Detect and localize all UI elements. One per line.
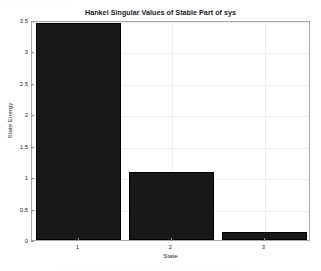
x-tick-label: 3 [262, 244, 265, 250]
x-tick-label: 1 [76, 244, 79, 250]
x-tick-label: 2 [169, 244, 172, 250]
chart-title: Hankel Singular Values of Stable Part of… [0, 8, 321, 17]
bar-2 [129, 172, 213, 240]
figure-canvas: ·· ··· ·· ···· · ·· ·· · Hankel Singular… [0, 0, 321, 271]
bars-layer [32, 22, 309, 240]
y-tick-mark [31, 21, 34, 22]
plot-area [31, 21, 310, 241]
x-tick-mark [78, 238, 79, 241]
y-tick-label: 3.5 [4, 18, 28, 24]
y-tick-label: 0 [4, 238, 28, 244]
y-tick-mark [31, 210, 34, 211]
y-tick-mark [31, 52, 34, 53]
y-tick-mark [31, 241, 34, 242]
y-tick-mark [31, 178, 34, 179]
x-tick-mark [264, 238, 265, 241]
y-tick-mark [31, 84, 34, 85]
bar-1 [36, 23, 120, 240]
x-tick-mark [171, 238, 172, 241]
y-axis-label: State Energy [6, 86, 13, 156]
y-tick-label: 0.5 [4, 207, 28, 213]
scan-artifact-bottom: ··· ···· ·· ··· ··· ··· · ·· ·· ·· ··· ·… [55, 264, 321, 271]
y-tick-mark [31, 147, 34, 148]
y-tick-mark [31, 115, 34, 116]
y-tick-label: 3 [4, 49, 28, 55]
x-axis-label: State [31, 252, 310, 259]
scan-artifact-top: ·· ··· ·· ···· · ·· ·· · [0, 0, 321, 7]
y-tick-label: 1 [4, 175, 28, 181]
